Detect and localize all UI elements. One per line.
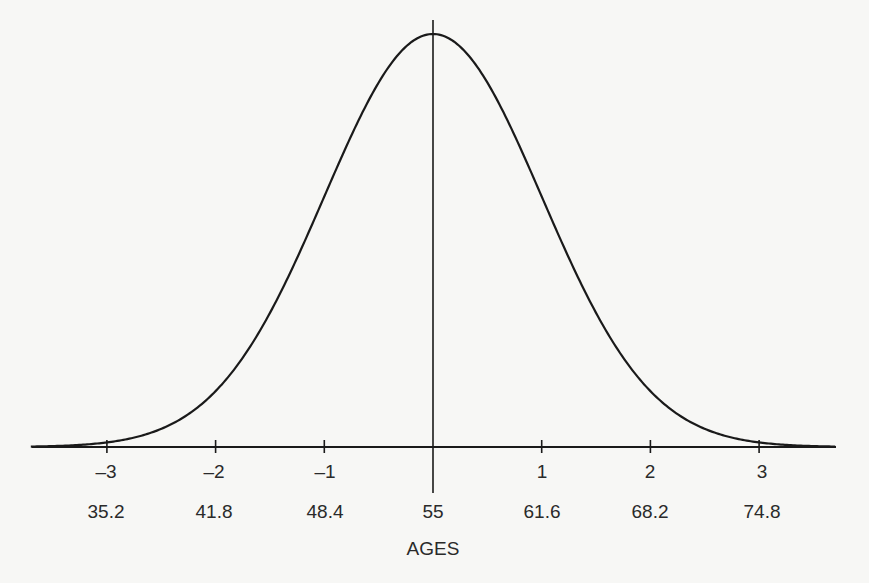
z-tick-label: –2 xyxy=(203,461,224,482)
x-axis-title: AGES xyxy=(407,538,460,559)
z-tick-label: 3 xyxy=(757,461,768,482)
age-tick-label: 35.2 xyxy=(88,501,125,522)
z-tick-label: 1 xyxy=(537,461,548,482)
age-tick-label: 55 xyxy=(422,501,443,522)
age-tick-label: 61.6 xyxy=(524,501,561,522)
age-tick-label: 74.8 xyxy=(744,501,781,522)
age-tick-label: 48.4 xyxy=(307,501,344,522)
z-tick-label: 2 xyxy=(645,461,656,482)
z-tick-label: –1 xyxy=(314,461,335,482)
age-tick-label: 68.2 xyxy=(632,501,669,522)
z-tick-label: –3 xyxy=(95,461,116,482)
normal-distribution-chart: –3 –2 –1 1 2 3 35.2 41.8 48.4 55 61.6 68… xyxy=(0,0,869,583)
chart-background xyxy=(0,0,869,583)
age-tick-label: 41.8 xyxy=(196,501,233,522)
